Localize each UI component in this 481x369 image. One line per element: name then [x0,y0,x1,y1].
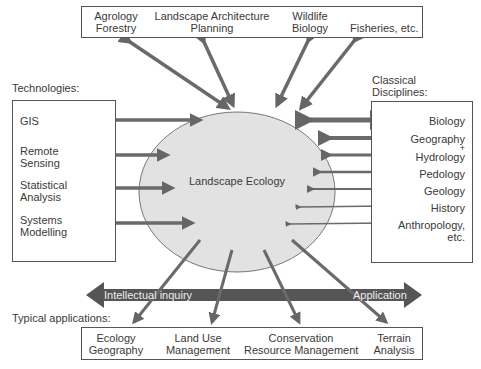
top-item-landscape-architecture: Landscape ArchitecturePlanning [153,10,271,34]
top-arrows [130,41,354,108]
right-item-geology: Geology [380,185,465,197]
right-item-hydrology: Hydrology [380,151,465,163]
landscape-ecology-ellipse [139,112,335,272]
bottom-item-ecology: EcologyGeography [85,332,147,356]
top-item-wildlife: WildlifeBiology [288,10,332,34]
bottom-item-terrain: TerrainAnalysis [370,332,418,356]
right-item-pedology: Pedology [380,168,465,180]
left-item-systems-modelling: SystemsModelling [20,214,67,238]
center-label: Landscape Ecology [167,175,307,187]
right-item-history: History [380,202,465,214]
bottom-box-title: Typical applications: [12,312,110,324]
top-item-agrology: AgrologyForestry [88,10,144,34]
right-box-title: ClassicalDisciplines: [372,74,428,98]
left-item-statistical-analysis: StatisticalAnalysis [20,179,67,203]
spectrum-right-label: Application [353,289,407,301]
right-item-biology: Biology [380,115,465,127]
left-box-title: Technologies: [12,82,79,94]
bottom-item-conservation: ConservationResource Management [244,332,358,356]
left-item-gis: GIS [20,115,39,127]
spectrum-left-label: Intellectual inquiry [104,289,192,301]
top-item-fisheries: Fisheries, etc. [350,22,418,34]
left-item-remote-sensing: RemoteSensing [20,145,60,169]
right-item-anthropology: Anthropology,etc. [370,219,465,243]
bottom-item-land-use: Land UseManagement [164,332,232,356]
